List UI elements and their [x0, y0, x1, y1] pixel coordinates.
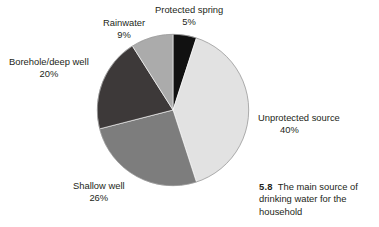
slice-label-protected-spring: Protected spring 5%	[155, 4, 223, 27]
slice-label-name-unprotected-source: Unprotected source	[258, 112, 340, 124]
slice-label-shallow-well: Shallow well 26%	[73, 180, 125, 203]
slice-label-value-shallow-well: 26%	[73, 192, 125, 204]
slice-label-value-unprotected-source: 40%	[258, 124, 340, 136]
pie-chart-svg	[96, 33, 250, 187]
slice-label-value-protected-spring: 5%	[155, 16, 223, 28]
slice-label-rainwater: Rainwater 9%	[103, 17, 145, 40]
figure-pie-chart-water-source: Protected spring 5% Rainwater 9% Borehol…	[0, 0, 379, 227]
slice-label-name-borehole-deep-well: Borehole/deep well	[9, 56, 89, 68]
slice-label-value-rainwater: 9%	[103, 29, 145, 41]
slice-label-name-rainwater: Rainwater	[103, 17, 145, 29]
pie-chart	[96, 33, 250, 187]
slice-label-borehole-deep-well: Borehole/deep well 20%	[9, 56, 89, 79]
slice-label-value-borehole-deep-well: 20%	[9, 68, 89, 80]
figure-caption-number: 5.8	[259, 181, 273, 192]
figure-caption: 5.8 The main source of drinking water fo…	[259, 181, 377, 218]
slice-label-unprotected-source: Unprotected source 40%	[258, 112, 340, 135]
slice-label-name-shallow-well: Shallow well	[73, 180, 125, 192]
slice-label-name-protected-spring: Protected spring	[155, 4, 223, 16]
